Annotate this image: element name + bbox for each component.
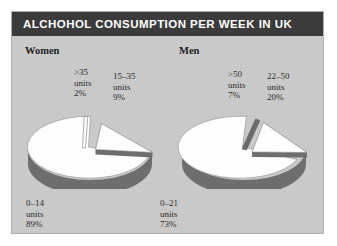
callout-line: 0–21 (160, 198, 178, 209)
pie-slice-men-22-50 (252, 123, 307, 153)
chart-figure: ALCHOHOL CONSUMPTION PER WEEK IN UK Wome… (11, 11, 324, 234)
callout-line: 7% (228, 90, 246, 101)
pie-chart-men (176, 107, 312, 189)
callout-line: 2% (74, 88, 92, 99)
callout-line: units (113, 82, 136, 93)
callout-line: 0–14 (26, 198, 44, 209)
panel-heading-men: Men (179, 45, 199, 56)
callout-men-22-50: 22–50 units 20% (267, 71, 290, 103)
callout-line: units (26, 209, 44, 220)
chart-title-bar: ALCHOHOL CONSUMPTION PER WEEK IN UK (12, 12, 323, 36)
callout-women-0-14: 0–14 units 89% (26, 198, 44, 230)
callout-men-over-50: >50 units 7% (228, 69, 246, 101)
callout-line: 20% (267, 92, 290, 103)
callout-line: units (267, 82, 290, 93)
page-title: ALCHOHOL CONSUMPTION PER WEEK IN UK (23, 18, 292, 30)
callout-line: 9% (113, 92, 136, 103)
callout-line: 22–50 (267, 71, 290, 82)
callout-line: units (228, 80, 246, 91)
pie-slice-women-15-35 (96, 124, 153, 153)
pie-chart-women (22, 107, 158, 189)
callout-line: >35 (74, 67, 92, 78)
callout-line: 89% (26, 219, 44, 230)
callout-men-0-21: 0–21 units 73% (160, 198, 178, 230)
callout-line: 73% (160, 219, 178, 230)
callout-line: >50 (228, 69, 246, 80)
pie-slice-side-men-22-50 (252, 152, 307, 158)
callout-line: units (160, 209, 178, 220)
callout-line: units (74, 78, 92, 89)
callout-women-15-35: 15–35 units 9% (113, 71, 136, 103)
panel-heading-women: Women (25, 45, 59, 56)
callout-women-over-35: >35 units 2% (74, 67, 92, 99)
callout-line: 15–35 (113, 71, 136, 82)
